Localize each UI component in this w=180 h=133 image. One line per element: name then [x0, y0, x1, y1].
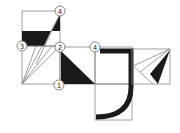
black-triangle-mid — [61, 51, 95, 84]
fan-line-4 — [22, 46, 36, 84]
label-circle-4-top: 4 — [55, 6, 65, 16]
label-text: 4 — [58, 8, 63, 16]
label-circle-3: 3 — [17, 41, 27, 51]
label-text: 1 — [57, 82, 61, 90]
label-text: 3 — [20, 43, 24, 51]
right-line-2 — [133, 66, 153, 84]
fan-line-2 — [22, 46, 42, 84]
label-circle-4-mid: 4 — [90, 42, 100, 52]
fan-line-1 — [22, 46, 60, 84]
fan-line-3 — [22, 46, 52, 84]
black-triangle-right — [150, 50, 170, 84]
construction-diagram: 4 3 2 4 1 — [0, 0, 180, 133]
label-text: 2 — [58, 44, 62, 52]
label-circle-1: 1 — [54, 80, 64, 90]
right-rect — [132, 49, 170, 84]
label-text: 4 — [93, 44, 98, 52]
label-circle-2: 2 — [55, 42, 65, 52]
